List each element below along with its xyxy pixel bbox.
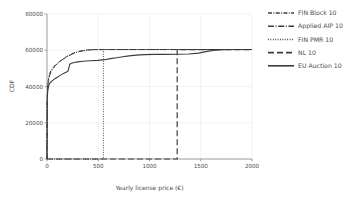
legend-label: FIN PMR 10 xyxy=(298,36,333,43)
y-tick-label: 40000 xyxy=(25,84,43,90)
x-tick-label: 2000 xyxy=(245,163,260,169)
x-tick-label: 500 xyxy=(93,163,104,169)
chart-figure: 0500100015002000 020000400006000080000 Y… xyxy=(0,0,353,199)
x-tick-label: 0 xyxy=(45,163,49,169)
x-tick-labels: 0500100015002000 xyxy=(45,163,259,169)
y-tick-label: 20000 xyxy=(25,120,43,126)
cdf-chart-svg: 0500100015002000 020000400006000080000 Y… xyxy=(0,0,353,199)
chart-legend: FIN Block 10Applied AIP 10FIN PMR 10NL 1… xyxy=(268,9,343,69)
x-tick-label: 1500 xyxy=(194,163,209,169)
y-tick-label: 0 xyxy=(39,156,43,162)
legend-label: Applied AIP 10 xyxy=(298,22,343,30)
x-axis-label: Yearly license price (€) xyxy=(114,184,183,192)
legend-label: EU Auction 10 xyxy=(298,62,342,69)
legend-label: NL 10 xyxy=(298,49,316,56)
y-tick-label: 60000 xyxy=(25,47,43,53)
y-tick-labels: 020000400006000080000 xyxy=(25,11,43,162)
y-tick-label: 80000 xyxy=(25,11,43,17)
x-tick-label: 1000 xyxy=(142,163,157,169)
legend-label: FIN Block 10 xyxy=(298,9,337,16)
y-axis-label: CDF xyxy=(8,79,15,92)
